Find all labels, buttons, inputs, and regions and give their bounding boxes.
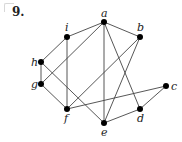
vertex-label-b: b bbox=[137, 21, 144, 34]
vertex-label-c: c bbox=[171, 80, 177, 93]
edge-g-f bbox=[41, 84, 67, 109]
edge-a-i bbox=[67, 22, 104, 37]
vertex-label-i: i bbox=[65, 21, 69, 34]
vertex-b bbox=[137, 34, 143, 40]
vertex-label-f: f bbox=[63, 112, 70, 125]
vertex-label-h: h bbox=[31, 56, 38, 69]
vertex-label-d: d bbox=[137, 112, 144, 125]
vertex-i bbox=[64, 34, 70, 40]
vertex-label-a: a bbox=[101, 7, 108, 20]
vertex-g bbox=[38, 81, 44, 87]
vertex-h bbox=[38, 59, 44, 65]
edge-i-h bbox=[41, 37, 67, 62]
graph-edges bbox=[41, 22, 166, 123]
vertex-label-e: e bbox=[101, 126, 108, 139]
edge-b-e bbox=[104, 37, 140, 123]
edge-f-c bbox=[67, 86, 166, 109]
vertex-c bbox=[163, 83, 169, 89]
vertex-label-g: g bbox=[31, 78, 38, 91]
graph-diagram: abcdefghi bbox=[0, 0, 182, 142]
